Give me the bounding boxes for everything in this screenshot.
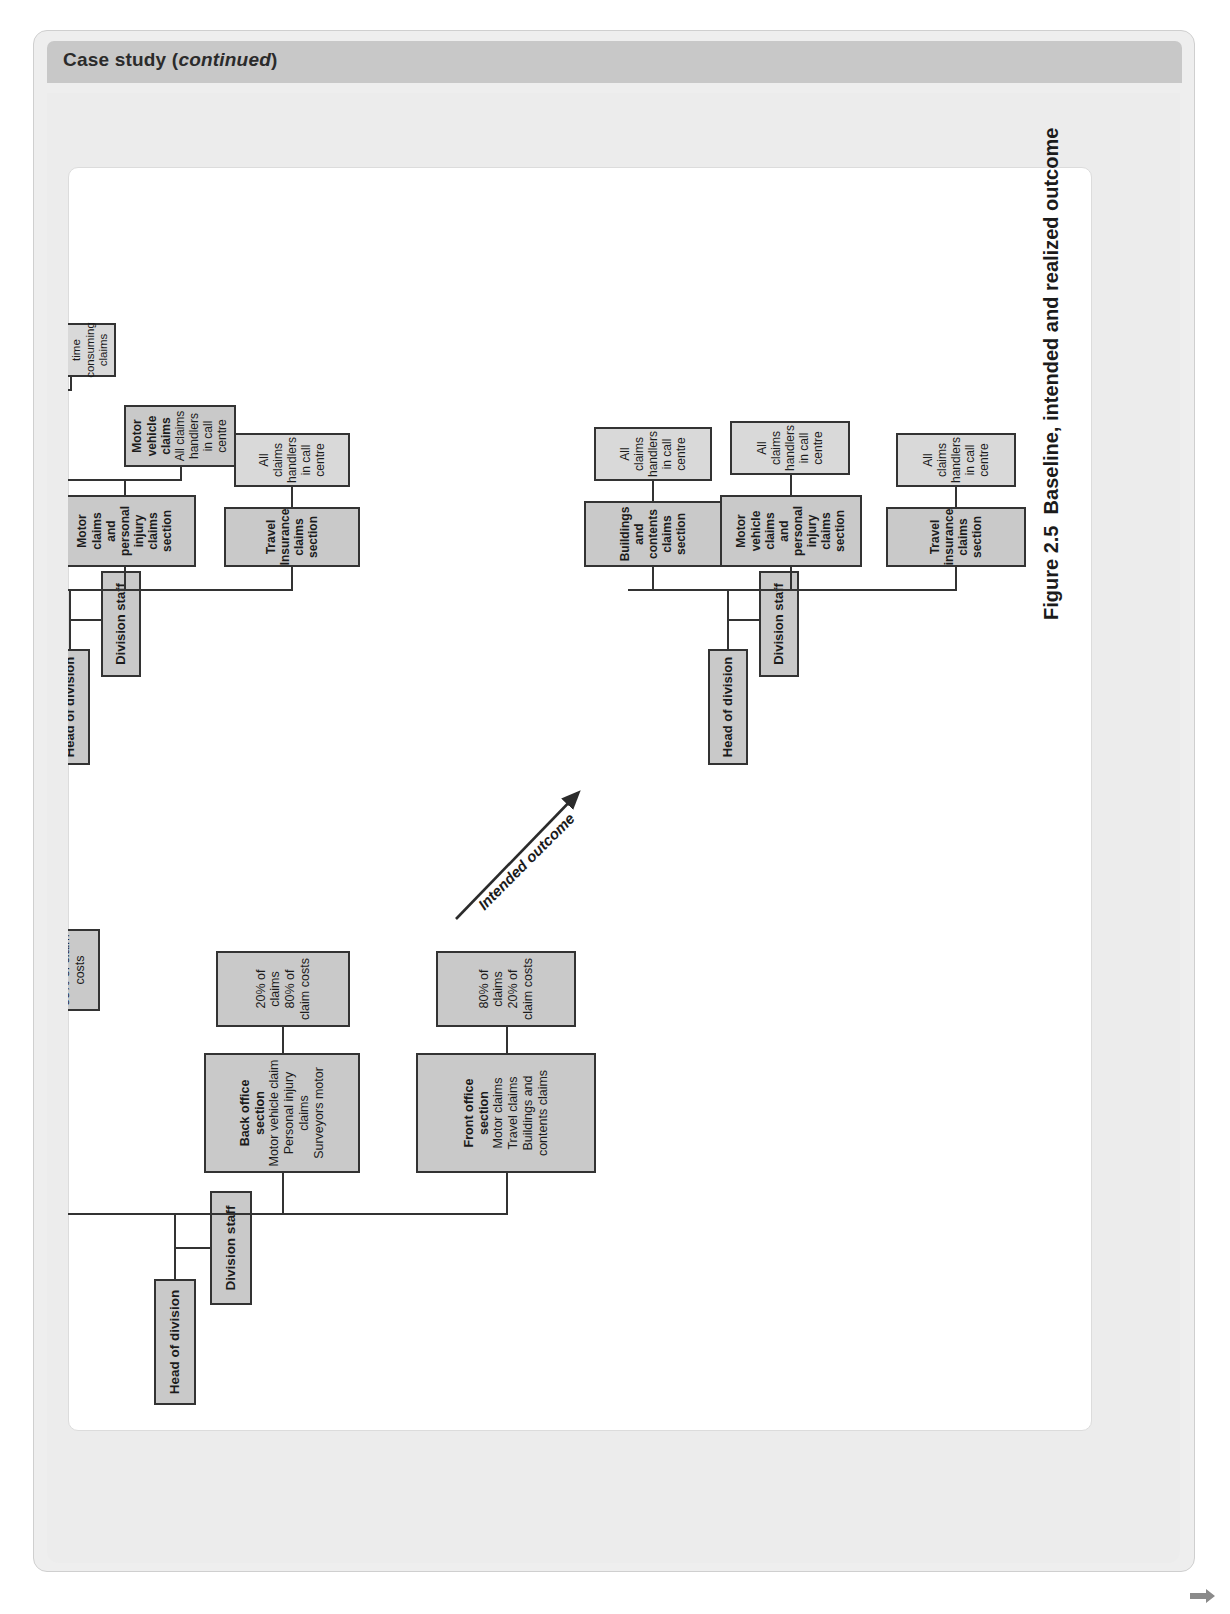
connector-line	[68, 479, 182, 481]
figure-caption-label: Figure 2.5	[1040, 526, 1062, 620]
connector-line	[68, 589, 70, 591]
outcome-arrows	[68, 167, 1090, 1429]
intended-head-of-division: Head of division	[708, 649, 748, 765]
page-title-tail: )	[271, 49, 278, 70]
connector-line	[652, 567, 654, 591]
connector-line	[180, 467, 182, 481]
intended-travel-section: Travel insurance claims section	[886, 507, 1026, 567]
connector-line	[69, 619, 101, 621]
motor-vehicle-title-1: Motor vehicle	[130, 410, 158, 462]
intended-buildings-child-2: in call centre	[660, 432, 688, 476]
intended-travel-line-2: claims section	[956, 512, 984, 562]
org-chart-canvas: Head of division Division staff Front of…	[68, 167, 1090, 1429]
intended-buildings-line-2: contents claims	[646, 506, 674, 562]
intended-buildings-line-3: section	[674, 513, 688, 555]
low-complexity-line-2: little time	[68, 328, 84, 372]
intended-travel-child-2: in call centre	[963, 438, 991, 482]
connector-line	[955, 567, 957, 591]
figure-rotation-wrapper: Head of division Division staff Front of…	[68, 167, 1090, 1429]
intended-buildings-section: Buildings and contents claims section	[584, 501, 722, 567]
intended-motor-line-2: and personal injury	[777, 500, 819, 562]
intended-motor-child-1: All claims handlers	[755, 425, 797, 471]
low-complexity-line-3: consuming claims	[84, 322, 111, 378]
intended-travel-line-1: Travel insurance	[928, 509, 956, 566]
intended-motor-handlers: All claims handlers in call centre	[730, 421, 850, 475]
intended-motor-line-1: Motor vehicle claims	[734, 500, 776, 562]
page-title-emphasis: continued	[178, 49, 271, 70]
intended-travel-child-1: All claims handlers	[921, 437, 963, 483]
intended-motor-line-3: claims section	[819, 500, 847, 562]
intended-buildings-handlers: All claims handlers in call centre	[594, 427, 712, 481]
page-root: Case study (continued) Head of division …	[0, 0, 1230, 1614]
intended-travel-handlers: All claims handlers in call centre	[896, 433, 1016, 487]
motor-vehicle-sub-1: All claims handlers	[173, 410, 201, 462]
intended-division-staff: Division staff	[759, 571, 799, 677]
intended-motor-child-2: in call centre	[797, 426, 825, 470]
realized-head-of-division: Head of division	[68, 649, 90, 765]
continuation-arrow-icon	[1190, 1588, 1216, 1604]
intended-buildings-line-1: Buildings and	[618, 506, 646, 562]
realized-division-staff: Division staff	[101, 571, 141, 677]
intended-buildings-child-1: All claims handlers	[618, 431, 660, 477]
realized-motor-vehicle-claims: Motor vehicle claims All claims handlers…	[124, 405, 236, 467]
connector-line	[124, 479, 126, 495]
realized-motor-section: Motor claims and personal injury claims …	[68, 495, 196, 567]
connector-line	[790, 567, 792, 591]
realized-motor-line-2: personal injury	[118, 500, 146, 562]
realized-low-complexity: Low complexity/ little time consuming cl…	[68, 323, 116, 377]
realized-travel-section: Travel Insurance claims section	[224, 507, 360, 567]
intended-motor-section: Motor vehicle claims and personal injury…	[720, 495, 862, 567]
motor-vehicle-sub-2: in call centre	[201, 410, 229, 462]
page-title: Case study (continued)	[63, 49, 663, 77]
connector-line	[727, 619, 759, 621]
connector-line	[69, 589, 293, 591]
connector-line	[124, 567, 126, 591]
motor-vehicle-title-2: claims	[159, 417, 173, 454]
connector-line	[955, 487, 957, 507]
realized-travel-child-2: in call centre	[299, 438, 327, 482]
page-title-main: Case study (	[63, 49, 178, 70]
realized-travel-line-2: claims section	[292, 512, 320, 562]
realized-travel-line-1: Travel Insurance	[264, 509, 292, 566]
realized-travel-handlers: All claims handlers in call centre	[234, 433, 350, 487]
figure-caption-text: Baseline, intended and realized outcome	[1040, 128, 1062, 515]
realized-motor-line-1: Motor claims and	[75, 500, 117, 562]
figure-caption: Figure 2.5 Baseline, intended and realiz…	[1040, 60, 1063, 620]
connector-line	[727, 589, 957, 591]
connector-line	[628, 589, 728, 591]
connector-line	[70, 377, 72, 391]
realized-travel-child-1: All claims handlers	[257, 437, 299, 483]
realized-motor-line-3: claims section	[146, 500, 174, 562]
connector-line	[291, 487, 293, 507]
connector-line	[291, 567, 293, 591]
connector-line	[652, 481, 654, 501]
connector-line	[790, 475, 792, 495]
